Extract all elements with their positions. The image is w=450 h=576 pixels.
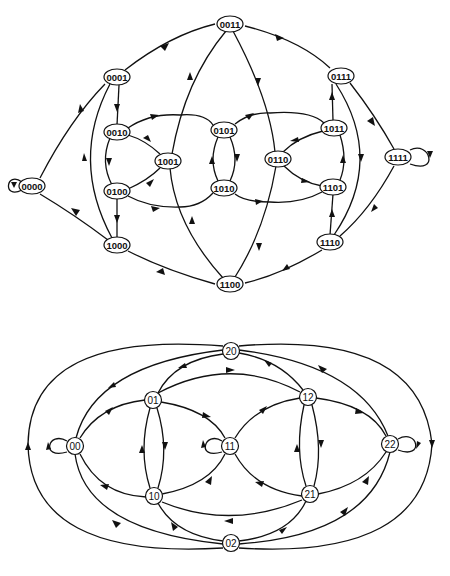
arrow-icon [318, 365, 327, 373]
arrow-icon [105, 407, 113, 415]
edge-12-22 [316, 398, 386, 436]
svg-text:1110: 1110 [320, 237, 340, 248]
edge-1000-0000 [40, 194, 108, 240]
node-1110: 1110 [317, 234, 343, 250]
arrow-icon [355, 408, 364, 414]
node-01: 01 [145, 392, 162, 409]
node-12: 12 [300, 389, 317, 406]
arrow-icon [416, 441, 421, 449]
de-bruijn-diagram: 0000 0001 0011 0111 1111 0010 0100 1000 … [0, 0, 450, 576]
node-21: 21 [302, 486, 319, 503]
svg-text:1111: 1111 [388, 152, 408, 163]
edge-11-10 [162, 454, 225, 494]
edge-1010-0100 [128, 193, 213, 207]
edge-1111-1111 [410, 148, 429, 166]
edge-0011-0111 [245, 26, 330, 68]
node-11: 11 [222, 438, 239, 455]
arrow-icon [429, 440, 435, 448]
edge-20-22-outer [239, 344, 432, 549]
arrow-icon [264, 360, 272, 367]
edge-0111-1111 [350, 83, 394, 149]
svg-text:0011: 0011 [220, 19, 241, 30]
arrow-icon [162, 442, 168, 450]
arrow-icon [255, 78, 261, 86]
edge-10-01 [144, 408, 150, 488]
arrow-icon [282, 264, 290, 271]
edge-0110-1101 [284, 166, 322, 186]
svg-text:1010: 1010 [213, 183, 234, 194]
edge-21-11 [235, 454, 302, 496]
svg-text:10: 10 [148, 491, 160, 502]
arrow-icon [224, 518, 233, 524]
svg-text:0101: 0101 [213, 125, 235, 136]
svg-text:0100: 0100 [106, 186, 127, 197]
arrow-icon [367, 117, 375, 126]
node-22: 22 [382, 436, 399, 453]
edge-21-10 [162, 500, 302, 516]
arrow-icon [108, 382, 116, 388]
svg-text:01: 01 [147, 395, 159, 406]
arrow-icon [189, 216, 195, 224]
arrow-icon [290, 137, 299, 142]
arrow-icon [202, 412, 211, 418]
node-10: 10 [146, 488, 163, 505]
edge-11-11 [205, 439, 222, 454]
svg-text:0110: 0110 [268, 154, 289, 165]
node-1010: 1010 [211, 180, 237, 196]
svg-text:21: 21 [304, 489, 316, 500]
edge-02-00-outer [28, 344, 223, 549]
arrow-icon [226, 367, 235, 373]
arrow-icon [255, 481, 264, 487]
edge-1011-0111 [332, 84, 333, 121]
edge-0011-0110 [233, 31, 275, 152]
edge-12-21 [312, 405, 319, 486]
arrow-icon [112, 520, 121, 528]
edge-1100-1000 [128, 251, 215, 284]
edge-1110-1100 [245, 250, 322, 283]
svg-text:0000: 0000 [21, 181, 42, 192]
arrow-icon [245, 113, 254, 120]
edge-01-11 [161, 402, 225, 438]
edge-00-01 [80, 400, 145, 438]
arrow-icon [114, 215, 120, 223]
edge-0111-1110 [334, 84, 360, 235]
arrow-icon [178, 363, 187, 368]
node-1011: 1011 [321, 120, 347, 136]
node-1000: 1000 [104, 237, 130, 253]
node-1101: 1101 [320, 179, 346, 195]
arrow-icon [362, 476, 369, 485]
arrow-icon [143, 135, 151, 142]
node-00: 00 [67, 438, 84, 455]
node-0110: 0110 [265, 151, 291, 167]
svg-text:1100: 1100 [220, 279, 241, 290]
svg-text:1001: 1001 [157, 156, 179, 167]
arrow-icon [146, 179, 154, 187]
edge-0010-0101 [128, 115, 213, 128]
arrow-icon [187, 72, 193, 80]
arrow-icon [106, 158, 112, 166]
svg-text:1000: 1000 [106, 240, 127, 251]
edge-0100-1001 [128, 168, 160, 189]
svg-text:0111: 0111 [331, 71, 352, 82]
node-0101: 0101 [211, 122, 237, 138]
node-0100: 0100 [104, 183, 130, 199]
svg-text:1101: 1101 [323, 182, 344, 193]
edge-00-00 [50, 439, 67, 454]
arrow-icon [151, 206, 160, 212]
node-0111: 0111 [328, 68, 354, 84]
edge-01-10 [157, 408, 164, 488]
node-1001: 1001 [155, 153, 181, 169]
arrow-icon [340, 155, 346, 163]
svg-text:12: 12 [302, 392, 314, 403]
arrow-icon [156, 268, 165, 275]
edge-21-12 [299, 405, 306, 486]
arrow-icon [329, 92, 335, 100]
edge-20-01 [158, 354, 223, 393]
arrow-icon [150, 114, 159, 120]
edge-0110-1100 [235, 166, 276, 277]
svg-text:02: 02 [225, 538, 237, 549]
svg-text:11: 11 [225, 441, 236, 452]
node-20: 20 [223, 343, 240, 360]
node-0011: 0011 [217, 16, 243, 32]
arrow-icon [114, 104, 120, 112]
